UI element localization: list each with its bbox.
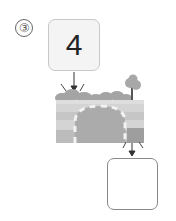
output-arrow-icon [129, 143, 135, 156]
input-arrow-icon [71, 72, 77, 91]
output-box[interactable] [107, 158, 158, 210]
tunnel-icon [75, 106, 125, 143]
